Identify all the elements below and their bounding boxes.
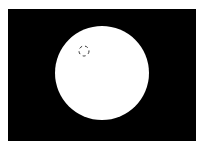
scene-canvas [0,0,207,147]
white-disk [55,26,149,120]
